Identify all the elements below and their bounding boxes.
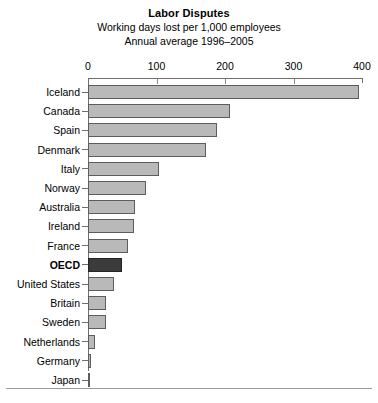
bar	[88, 315, 106, 329]
bar	[88, 181, 146, 195]
category-label: Ireland	[0, 217, 80, 236]
bar-row: Netherlands	[0, 333, 378, 352]
category-label: Britain	[0, 294, 80, 313]
bar	[88, 296, 106, 310]
x-axis-tick-label: 300	[274, 60, 314, 72]
bar-row: Iceland	[0, 83, 378, 102]
bar-row: Spain	[0, 121, 378, 140]
bar-row: Norway	[0, 179, 378, 198]
bar	[88, 354, 91, 368]
category-label: Norway	[0, 179, 80, 198]
category-label: Denmark	[0, 141, 80, 160]
bar	[88, 143, 206, 157]
category-label: Netherlands	[0, 333, 80, 352]
category-label: OECD	[0, 256, 80, 275]
bar	[88, 239, 128, 253]
bar-row: France	[0, 237, 378, 256]
category-label: Italy	[0, 160, 80, 179]
bar-row: Ireland	[0, 217, 378, 236]
bar	[88, 162, 159, 176]
category-label: Germany	[0, 352, 80, 371]
category-label: Iceland	[0, 83, 80, 102]
category-label: Spain	[0, 121, 80, 140]
bar	[88, 277, 114, 291]
x-axis-tick-label: 400	[342, 60, 378, 72]
bar	[88, 258, 122, 272]
x-axis-tick-label: 0	[68, 60, 108, 72]
labor-disputes-bar-chart: Labor Disputes Working days lost per 1,0…	[0, 0, 378, 403]
bar	[88, 85, 359, 99]
bar-row: Denmark	[0, 141, 378, 160]
bar	[88, 219, 134, 233]
x-axis-tick-label: 100	[137, 60, 177, 72]
bar	[88, 200, 135, 214]
category-label: France	[0, 237, 80, 256]
bar-row: Canada	[0, 102, 378, 121]
bar-row: United States	[0, 275, 378, 294]
category-label: Canada	[0, 102, 80, 121]
bar	[88, 123, 217, 137]
bar-row: Britain	[0, 294, 378, 313]
bar-row: Australia	[0, 198, 378, 217]
bar	[88, 104, 230, 118]
bar	[88, 373, 90, 387]
bar	[88, 335, 95, 349]
x-axis-tick-label: 200	[205, 60, 245, 72]
plot-area: 0100200300400 IcelandCanadaSpainDenmarkI…	[0, 0, 378, 403]
bar-row: OECD	[0, 256, 378, 275]
bar-row: Sweden	[0, 313, 378, 332]
category-label: Sweden	[0, 313, 80, 332]
footer-divider	[6, 388, 372, 389]
bar-row: Germany	[0, 352, 378, 371]
category-label: Australia	[0, 198, 80, 217]
bar-row: Italy	[0, 160, 378, 179]
category-label: United States	[0, 275, 80, 294]
